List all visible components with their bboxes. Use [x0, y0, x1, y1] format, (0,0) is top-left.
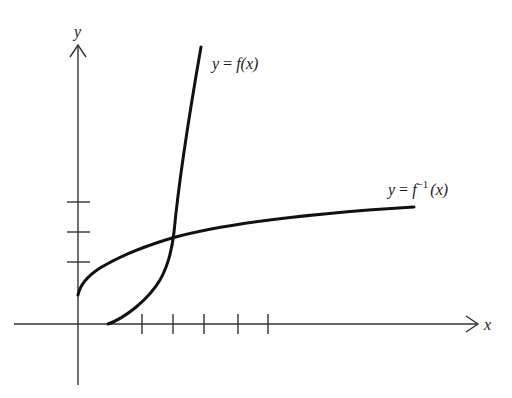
x-axis: x	[14, 316, 491, 333]
function-inverse-diagram: x y y = f(x) y = f−1(x)	[0, 0, 512, 398]
y-axis: y	[70, 23, 86, 385]
curve-f-inverse	[78, 207, 414, 295]
x-axis-label: x	[483, 316, 491, 333]
f-inverse-label: y = f−1(x)	[386, 178, 448, 199]
f-label: y = f(x)	[210, 55, 258, 73]
curve-f	[108, 47, 201, 324]
y-axis-label: y	[72, 23, 82, 41]
